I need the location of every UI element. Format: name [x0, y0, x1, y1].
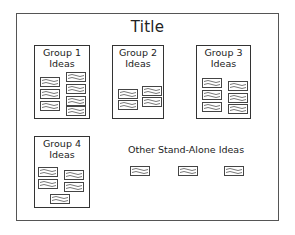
- wave-lines-icon: [230, 94, 246, 102]
- wave-lines-icon: [120, 90, 136, 98]
- idea-card-icon: [178, 166, 198, 176]
- wave-lines-icon: [180, 167, 196, 175]
- idea-card-icon: [64, 170, 84, 180]
- wave-lines-icon: [132, 167, 148, 175]
- wave-lines-icon: [42, 90, 58, 98]
- diagram-title: Title: [17, 18, 278, 36]
- group-3-box: Group 3 Ideas: [196, 45, 251, 119]
- group-3-label: Group 3 Ideas: [197, 48, 250, 69]
- wave-lines-icon: [68, 97, 84, 105]
- wave-lines-icon: [204, 103, 220, 111]
- wave-lines-icon: [144, 87, 160, 95]
- wave-lines-icon: [42, 78, 58, 86]
- idea-card-icon: [38, 167, 58, 177]
- idea-card-icon: [64, 182, 84, 192]
- wave-lines-icon: [204, 91, 220, 99]
- idea-card-icon: [130, 166, 150, 176]
- group-1-box: Group 1 Ideas: [34, 45, 90, 119]
- wave-lines-icon: [230, 82, 246, 90]
- idea-card-icon: [202, 102, 222, 112]
- group-4-label: Group 4 Ideas: [35, 139, 89, 160]
- wave-lines-icon: [42, 102, 58, 110]
- group-4-box: Group 4 Ideas: [34, 136, 90, 208]
- idea-card-icon: [228, 93, 248, 103]
- group-2-box: Group 2 Ideas: [112, 45, 164, 119]
- stand-alone-ideas-label: Other Stand-Alone Ideas: [128, 144, 244, 155]
- idea-card-icon: [40, 101, 60, 111]
- wave-lines-icon: [120, 101, 136, 109]
- wave-lines-icon: [68, 73, 84, 81]
- idea-card-icon: [40, 77, 60, 87]
- wave-lines-icon: [144, 98, 160, 106]
- wave-lines-icon: [204, 79, 220, 87]
- wave-lines-icon: [52, 195, 68, 203]
- idea-card-icon: [40, 89, 60, 99]
- idea-card-icon: [118, 89, 138, 99]
- wave-lines-icon: [66, 171, 82, 179]
- idea-card-icon: [202, 90, 222, 100]
- wave-lines-icon: [68, 107, 84, 115]
- idea-card-icon: [38, 179, 58, 189]
- idea-card-icon: [50, 194, 70, 204]
- idea-card-icon: [142, 86, 162, 96]
- idea-card-icon: [228, 104, 248, 114]
- wave-lines-icon: [68, 85, 84, 93]
- idea-card-icon: [118, 100, 138, 110]
- idea-card-icon: [228, 81, 248, 91]
- idea-card-icon: [66, 84, 86, 94]
- idea-card-icon: [66, 96, 86, 106]
- group-1-label: Group 1 Ideas: [35, 48, 89, 69]
- idea-card-icon: [66, 106, 86, 116]
- idea-card-icon: [202, 78, 222, 88]
- idea-card-icon: [66, 72, 86, 82]
- idea-card-icon: [224, 166, 244, 176]
- idea-card-icon: [142, 97, 162, 107]
- wave-lines-icon: [226, 167, 242, 175]
- wave-lines-icon: [230, 105, 246, 113]
- wave-lines-icon: [40, 180, 56, 188]
- group-2-label: Group 2 Ideas: [113, 48, 163, 69]
- wave-lines-icon: [40, 168, 56, 176]
- wave-lines-icon: [66, 183, 82, 191]
